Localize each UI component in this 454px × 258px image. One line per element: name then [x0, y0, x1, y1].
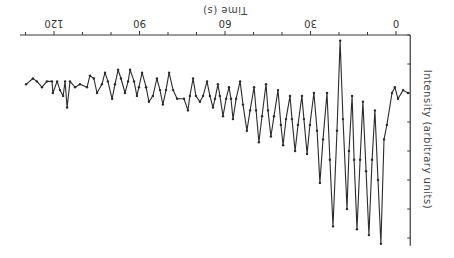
data-point — [336, 130, 338, 132]
data-point — [351, 95, 353, 97]
data-point — [346, 208, 348, 210]
data-point — [309, 124, 311, 126]
data-point — [148, 101, 150, 103]
data-point — [41, 86, 43, 88]
data-point — [129, 69, 131, 71]
data-point — [93, 77, 95, 79]
data-point — [239, 80, 241, 82]
y-axis-title: Intensity (arbitrary units) — [422, 70, 433, 209]
data-point — [407, 92, 409, 94]
series-markers — [25, 40, 409, 245]
data-point — [133, 80, 135, 82]
x-tick-label: 0 — [393, 18, 399, 29]
data-point — [136, 95, 138, 97]
data-point — [79, 83, 81, 85]
data-point — [322, 138, 324, 140]
chart: 0306090120 Time (s) Intensity (arbitrary… — [0, 0, 454, 258]
x-tick-label: 30 — [304, 18, 317, 29]
data-point — [89, 74, 91, 76]
data-point — [383, 138, 385, 140]
data-point — [51, 80, 53, 82]
data-point — [380, 243, 382, 245]
data-point — [282, 144, 284, 146]
data-point — [206, 80, 208, 82]
data-point — [253, 86, 255, 88]
data-point — [162, 103, 164, 105]
data-point — [301, 95, 303, 97]
data-point — [289, 95, 291, 97]
data-point — [265, 83, 267, 85]
data-point — [168, 72, 170, 74]
data-point — [270, 135, 272, 137]
data-point — [199, 101, 201, 103]
data-point — [192, 77, 194, 79]
data-point — [86, 86, 88, 88]
data-point — [117, 69, 119, 71]
data-point — [342, 118, 344, 120]
data-point — [25, 83, 27, 85]
data-point — [165, 89, 167, 91]
data-point — [62, 95, 64, 97]
data-point — [359, 159, 361, 161]
data-point — [267, 109, 269, 111]
data-point — [159, 89, 161, 91]
data-point — [277, 89, 279, 91]
data-point — [74, 86, 76, 88]
data-point — [313, 92, 315, 94]
x-tick-label: 60 — [219, 18, 232, 29]
data-point — [114, 83, 116, 85]
data-point — [285, 118, 287, 120]
data-point — [214, 98, 216, 100]
data-point — [219, 95, 221, 97]
data-point — [291, 118, 293, 120]
data-point — [273, 115, 275, 117]
data-point — [316, 130, 318, 132]
data-point — [255, 109, 257, 111]
data-point — [59, 89, 61, 91]
data-point — [294, 150, 296, 152]
data-point — [101, 83, 103, 85]
data-point — [230, 98, 232, 100]
data-point — [217, 83, 219, 85]
data-point — [374, 109, 376, 111]
x-tick-label: 90 — [133, 18, 146, 29]
data-point — [249, 109, 251, 111]
data-point — [172, 89, 174, 91]
data-point — [348, 150, 350, 152]
data-point — [46, 80, 48, 82]
data-point — [402, 89, 404, 91]
data-point — [365, 170, 367, 172]
data-point — [138, 86, 140, 88]
data-point — [104, 72, 106, 74]
data-point — [32, 77, 34, 79]
data-point — [339, 40, 341, 42]
data-point — [212, 106, 214, 108]
data-point — [303, 118, 305, 120]
x-tick-label: 120 — [44, 18, 63, 29]
data-point — [156, 77, 158, 79]
x-ticks: 0306090120 — [26, 18, 400, 35]
data-point — [96, 92, 98, 94]
data-point — [107, 80, 109, 82]
data-point — [329, 159, 331, 161]
data-point — [394, 86, 396, 88]
data-point — [232, 118, 234, 120]
rotated-figure: 0306090120 Time (s) Intensity (arbitrary… — [20, 5, 433, 246]
data-point — [332, 225, 334, 227]
x-axis-title: Time (s) — [203, 5, 249, 16]
data-point — [127, 80, 129, 82]
data-point — [391, 92, 393, 94]
data-point — [176, 98, 178, 100]
data-point — [235, 98, 237, 100]
data-point — [195, 95, 197, 97]
data-point — [326, 92, 328, 94]
data-point — [183, 98, 185, 100]
data-point — [306, 153, 308, 155]
data-point — [52, 92, 54, 94]
data-point — [120, 77, 122, 79]
data-point — [111, 98, 113, 100]
data-point — [141, 72, 143, 74]
data-point — [353, 159, 355, 161]
data-point — [124, 92, 126, 94]
data-point — [152, 95, 154, 97]
